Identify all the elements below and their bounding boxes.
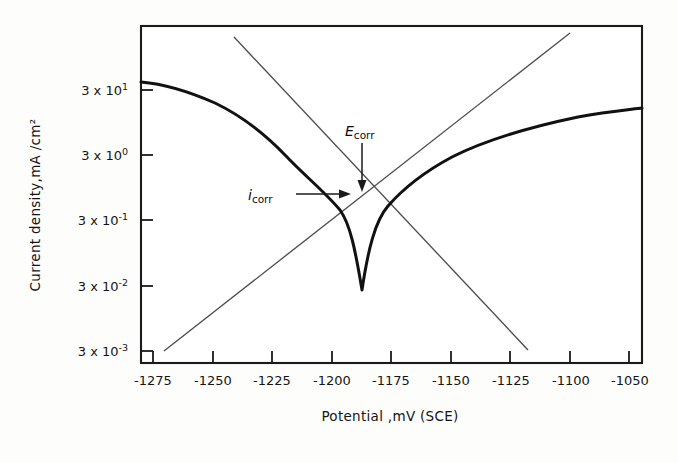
y-tick-label-1: 3 x 10 [81,148,122,163]
y-tick-exp-3: -2 [119,277,128,288]
y-tick-exp-0: 1 [122,81,128,92]
svg-text:3 x 101: 3 x 101 [81,81,128,98]
x-tick-label-7: -1100 [552,373,590,388]
ecorr-label-sub: corr [354,129,375,141]
plot-frame [141,26,642,363]
polarization-chart-svg: Ecorr icorr 3 x 101 3 x 100 3 x 10-1 [0,0,678,463]
y-tick-exp-4: -3 [119,342,128,353]
y-tick-label-2: 3 x 10 [78,213,119,228]
x-tick-label-6: -1125 [492,373,530,388]
x-tick-label-1: -1250 [194,373,232,388]
x-tick-label-2: -1225 [253,373,291,388]
x-tick-label-8: -1050 [611,373,649,388]
icorr-label-sub: corr [252,193,273,205]
svg-text:3 x 10-3: 3 x 10-3 [78,342,128,359]
svg-text:3 x 10-2: 3 x 10-2 [78,277,128,294]
x-tick-label-0: -1275 [134,373,172,388]
y-tick-exp-1: 0 [122,146,128,157]
svg-text:3 x 100: 3 x 100 [81,146,128,163]
y-tick-exp-2: -1 [119,211,128,222]
svg-text:3 x 10-1: 3 x 10-1 [78,211,128,228]
y-tick-labels: 3 x 101 3 x 100 3 x 10-1 3 x 10-2 3 x 10… [78,81,128,359]
x-tick-label-5: -1150 [432,373,470,388]
y-tick-label-4: 3 x 10 [78,344,119,359]
y-tick-label-3: 3 x 10 [78,279,119,294]
y-axis-title: Current density,mA /cm² [27,119,43,292]
x-axis-title: Potential ,mV (SCE) [321,408,458,424]
chart-figure: Ecorr icorr 3 x 101 3 x 100 3 x 10-1 [0,0,678,463]
x-tick-label-4: -1175 [372,373,410,388]
y-tick-label-0: 3 x 10 [81,83,122,98]
x-tick-labels: -1275 -1250 -1225 -1200 -1175 -1150 -112… [134,373,649,388]
ecorr-label-main: E [345,123,354,139]
x-tick-label-3: -1200 [313,373,351,388]
